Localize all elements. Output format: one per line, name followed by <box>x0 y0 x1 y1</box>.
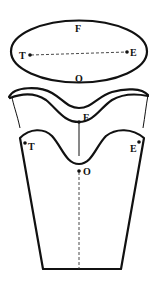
band-left-edge <box>12 97 20 128</box>
body-outline <box>20 130 144 269</box>
top-view-ellipse-group: F T E O <box>11 21 147 85</box>
point-o-body <box>77 169 81 173</box>
label-o-body: O <box>83 166 91 177</box>
point-e-top <box>125 50 129 54</box>
body-group: T E O <box>20 130 144 269</box>
point-t-body <box>23 141 27 145</box>
label-e-body: E <box>130 143 137 154</box>
garment-diagram: F T E O F T E O <box>0 0 158 282</box>
label-o-top: O <box>75 73 83 84</box>
band-right-edge <box>143 95 148 128</box>
point-e-body <box>137 140 141 144</box>
label-f-band: F <box>83 112 89 123</box>
band-top-curve <box>9 88 148 108</box>
label-t-body: T <box>28 141 35 152</box>
label-f-top: F <box>75 23 81 34</box>
label-t-top: T <box>19 50 26 61</box>
label-e-top: E <box>130 47 137 58</box>
point-t-top <box>28 53 32 57</box>
point-f-band <box>77 120 81 124</box>
t-e-dashed-line <box>31 52 127 55</box>
